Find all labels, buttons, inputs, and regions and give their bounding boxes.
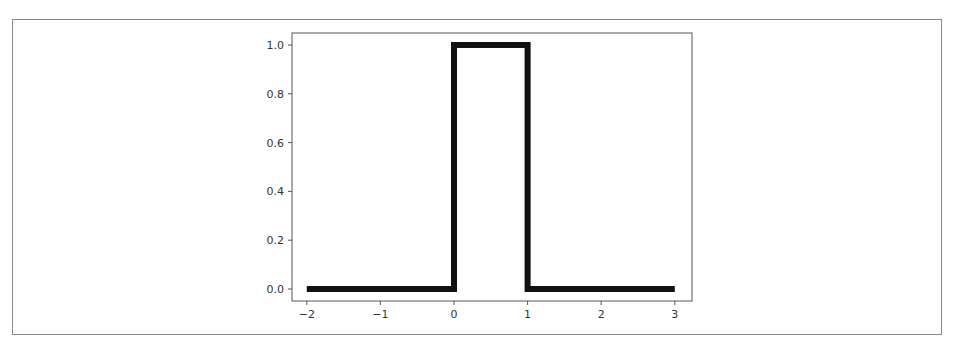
x-tick-label: −2 [299,308,315,321]
y-tick-label: 0.0 [267,283,285,296]
x-tick-label: 1 [524,308,531,321]
x-tick-label: 3 [671,308,678,321]
x-tick-label: −1 [372,308,388,321]
x-axis-ticks: −2−10123 [299,301,679,321]
plot-area [292,33,692,301]
y-tick-label: 0.8 [267,88,285,101]
x-tick-label: 2 [598,308,605,321]
pulse-chart: 0.00.20.40.60.81.0 −2−10123 [0,0,959,346]
y-tick-label: 1.0 [267,39,285,52]
y-tick-label: 0.2 [267,234,285,247]
y-axis-ticks: 0.00.20.40.60.81.0 [267,39,293,296]
y-tick-label: 0.6 [267,137,285,150]
x-tick-label: 0 [451,308,458,321]
y-tick-label: 0.4 [267,185,285,198]
